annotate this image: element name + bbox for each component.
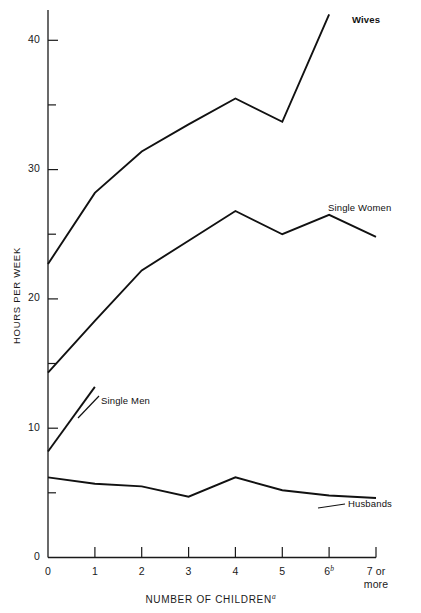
x-tick-label-2-text: 2 bbox=[139, 565, 145, 577]
x-tick-label-7: 7 or more bbox=[356, 565, 396, 590]
series-label-wives: Wives bbox=[352, 14, 380, 25]
series-line-single-men bbox=[48, 387, 95, 452]
chart-plot-area bbox=[0, 0, 421, 613]
x-tick-label-2: 2 bbox=[122, 565, 162, 577]
y-tick-label-30: 30 bbox=[14, 162, 40, 174]
x-tick-label-1: 1 bbox=[75, 565, 115, 577]
x-axis-title-text: NUMBER OF CHILDREN bbox=[145, 594, 272, 605]
x-tick-label-5-text: 5 bbox=[279, 565, 285, 577]
axis-group bbox=[48, 10, 376, 558]
label-leader-lines bbox=[78, 396, 345, 508]
x-axis-title: NUMBER OF CHILDRENa bbox=[0, 594, 421, 605]
x-tick-label-4: 4 bbox=[215, 565, 255, 577]
x-tick-label-0-text: 0 bbox=[45, 565, 51, 577]
series-label-husbands: Husbands bbox=[348, 498, 392, 509]
y-tick-label-0: 0 bbox=[14, 550, 40, 562]
y-tick-label-10: 10 bbox=[14, 421, 40, 433]
x-axis-title-superscript: a bbox=[272, 592, 276, 601]
x-tick-label-7-text: 7 or bbox=[367, 565, 386, 577]
x-tick-label-1-text: 1 bbox=[92, 565, 98, 577]
series-label-single-women: Single Women bbox=[328, 202, 391, 213]
series-line-single-women bbox=[48, 211, 376, 373]
x-tick-label-7-second-line: more bbox=[356, 578, 396, 590]
series-lines bbox=[48, 14, 376, 498]
x-tick-label-5: 5 bbox=[262, 565, 302, 577]
x-tick-label-6-superscript: b bbox=[330, 564, 334, 573]
x-tick-label-3-text: 3 bbox=[186, 565, 192, 577]
series-line-wives bbox=[48, 14, 329, 264]
x-tick-label-0: 0 bbox=[28, 565, 68, 577]
leader-line-husbands bbox=[318, 504, 345, 508]
series-line-husbands bbox=[48, 477, 376, 498]
chart-figure: 40 30 20 10 0 HOURS PER WEEK 0 1 2 3 4 5… bbox=[0, 0, 421, 613]
y-tick-label-40: 40 bbox=[14, 33, 40, 45]
series-label-single-men: Single Men bbox=[101, 395, 150, 406]
x-tick-label-4-text: 4 bbox=[232, 565, 238, 577]
x-axis-ticks bbox=[95, 547, 376, 558]
x-tick-label-6: 6b bbox=[309, 565, 349, 577]
y-axis-title: HOURS PER WEEK bbox=[11, 236, 22, 356]
x-tick-label-3: 3 bbox=[169, 565, 209, 577]
